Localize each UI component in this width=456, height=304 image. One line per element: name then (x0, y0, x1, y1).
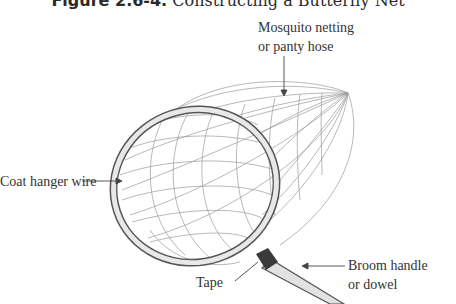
leader-lines (82, 56, 345, 281)
netting-label: Mosquito netting or panty hose (258, 18, 354, 56)
net-mesh (120, 82, 354, 265)
handle-label: Broom handle or dowel (348, 256, 428, 294)
broom-handle (256, 248, 344, 304)
wire-label: Coat hanger wire (0, 172, 96, 191)
tape-label: Tape (196, 273, 223, 292)
